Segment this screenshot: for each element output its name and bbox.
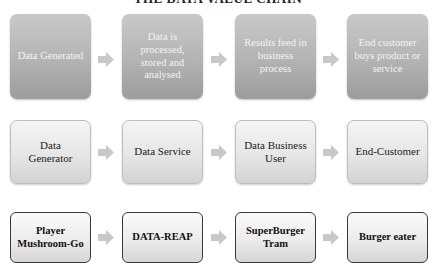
box-label: SuperBurger Tram — [237, 225, 314, 251]
row-example-instance: Player Mushroom-Go DATA-REAP SuperBurger… — [0, 212, 436, 263]
box-data-processed: Data is processed, stored and analysed — [122, 14, 203, 99]
box-label: Data is processed, stored and analysed — [128, 31, 197, 82]
box-label: Player Mushroom-Go — [12, 225, 89, 251]
row-generic-value-chain: Data Generated Data is processed, stored… — [0, 14, 436, 99]
arrow-right-icon — [98, 230, 114, 245]
box-label: Burger eater — [359, 231, 416, 244]
box-end-customer-buys: End customer buys product or service — [347, 14, 428, 99]
box-data-service: Data Service — [122, 120, 203, 184]
arrow-right-icon — [323, 145, 339, 160]
arrow-right-icon — [323, 52, 339, 67]
box-burger-eater: Burger eater — [347, 212, 428, 263]
box-end-customer: End-Customer — [347, 120, 428, 184]
box-label: Results feed in business process — [241, 37, 310, 75]
box-label: Data Generator — [17, 139, 84, 166]
box-label: Data Generated — [18, 50, 84, 63]
box-data-generated: Data Generated — [10, 14, 91, 99]
arrow-right-icon — [323, 230, 339, 245]
box-label: DATA-REAP — [132, 231, 192, 244]
box-data-business-user: Data Business User — [235, 120, 316, 184]
box-data-generator: Data Generator — [10, 120, 91, 184]
box-label: Data Service — [134, 145, 191, 158]
box-label: End-Customer — [355, 145, 419, 158]
box-data-reap: DATA-REAP — [122, 212, 203, 263]
box-label: End customer buys product or service — [353, 37, 422, 75]
box-superburger-tram: SuperBurger Tram — [235, 212, 316, 263]
arrow-right-icon — [211, 230, 227, 245]
arrow-right-icon — [98, 52, 114, 67]
arrow-right-icon — [211, 52, 227, 67]
row-actor-roles: Data Generator Data Service Data Busines… — [0, 120, 436, 184]
box-player-mushroom-go: Player Mushroom-Go — [10, 212, 91, 263]
arrow-right-icon — [211, 145, 227, 160]
box-results-feed: Results feed in business process — [235, 14, 316, 99]
box-label: Data Business User — [242, 139, 309, 166]
arrow-right-icon — [98, 145, 114, 160]
diagram-title: THE DATA VALUE CHAIN — [0, 0, 436, 7]
